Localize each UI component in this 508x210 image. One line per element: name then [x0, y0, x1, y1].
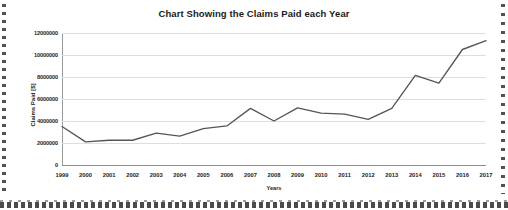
x-axis-tick-label: 2014: [409, 172, 422, 178]
y-axis-tick-label: 0: [55, 162, 58, 168]
x-axis-tick-label: 2012: [362, 172, 375, 178]
series-line-claims-paid: [62, 41, 486, 142]
x-axis-tick-label: 2005: [197, 172, 210, 178]
scan-edge-left-decoration: [2, 4, 6, 194]
chart-title: Chart Showing the Claims Paid each Year: [0, 8, 508, 19]
scan-edge-right-decoration: [501, 4, 505, 194]
chart-screenshot: Chart Showing the Claims Paid each Year …: [0, 0, 508, 210]
x-axis-tick-label: 2001: [103, 172, 116, 178]
x-axis-tick-label: 2000: [79, 172, 92, 178]
y-axis-tick-label: 6000000: [37, 96, 58, 102]
y-axis-tick-label: 10000000: [34, 52, 58, 58]
x-axis-tick-label: 2015: [432, 172, 445, 178]
y-axis-title: Claims Paid [$]: [30, 83, 36, 126]
x-axis-tick-label: 2007: [244, 172, 257, 178]
gridline-y: [62, 165, 486, 166]
x-axis-tick-label: 2004: [173, 172, 186, 178]
plot-area: 0200000040000006000000800000010000000120…: [62, 33, 486, 165]
x-axis-tick-label: 2008: [268, 172, 281, 178]
x-axis-tick-label: 2003: [150, 172, 163, 178]
series-claims-paid: [62, 33, 486, 165]
x-axis-tick-label: 2013: [385, 172, 398, 178]
x-axis-tick-label: 2002: [126, 172, 139, 178]
x-axis-tick-label: 2010: [315, 172, 328, 178]
y-axis-tick-label: 12000000: [34, 30, 58, 36]
x-axis-title: Years: [62, 185, 486, 191]
x-axis-tick-label: 2009: [291, 172, 304, 178]
scan-edge-bottom-decoration: [0, 202, 508, 208]
y-axis-tick-label: 8000000: [37, 74, 58, 80]
y-axis-tick-label: 2000000: [37, 140, 58, 146]
x-axis-tick-label: 2006: [220, 172, 233, 178]
x-axis-tick-label: 2016: [456, 172, 469, 178]
x-axis-tick-label: 1999: [56, 172, 69, 178]
x-axis-tick-label: 2017: [480, 172, 493, 178]
x-axis-tick-label: 2011: [338, 172, 351, 178]
y-axis-tick-label: 4000000: [37, 118, 58, 124]
